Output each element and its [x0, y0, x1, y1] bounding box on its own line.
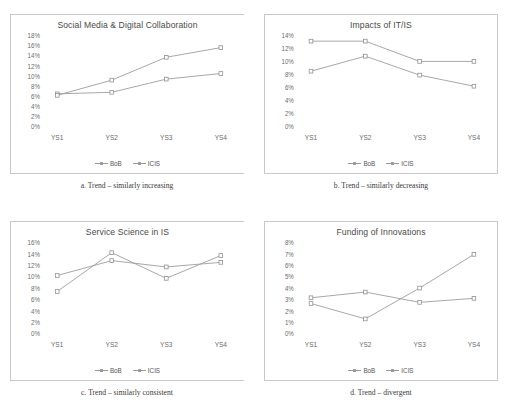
x-axis-tick-label: YS3: [160, 341, 173, 348]
x-axis-tick-label: YS3: [160, 134, 173, 141]
chart-panel-a: Social Media & Digital Collaboration 18%…: [10, 14, 244, 174]
data-point-marker: [164, 55, 168, 59]
legend-label-icis: ICIS: [148, 160, 160, 167]
series-line-icis: [311, 292, 474, 302]
x-axis-tick-label: YS3: [413, 341, 426, 348]
series-line-bob: [311, 254, 474, 319]
y-axis-tick-label: 16%: [28, 239, 41, 246]
legend-swatch-icis-icon: [133, 163, 146, 164]
x-axis-tick-label: YS2: [359, 134, 372, 141]
legend-item-icis-c: ICIS: [133, 367, 160, 374]
y-axis-tick-label: 3%: [285, 296, 294, 303]
y-axis-tick-label: 6%: [285, 262, 294, 269]
y-axis-tick-label: 0%: [285, 123, 294, 130]
data-point-marker: [110, 259, 114, 263]
data-point-marker: [309, 39, 313, 43]
data-point-marker: [219, 260, 223, 264]
legend-label-bob: BoB: [363, 367, 375, 374]
legend-item-bob-b: BoB: [348, 160, 375, 167]
data-point-marker: [363, 54, 367, 58]
chart-cell-d: Funding of Innovations 8%7%6%5%4%3%2%1%0…: [254, 207, 508, 414]
y-axis-tick-label: 2%: [285, 308, 294, 315]
x-axis-tick-label: YS4: [468, 341, 481, 348]
x-axis-tick-label: YS3: [413, 134, 426, 141]
y-axis-tick-label: 8%: [285, 71, 294, 78]
chart-caption-c: c. Trend – similarly consistent: [81, 388, 173, 397]
y-axis-tick-label: 4%: [31, 308, 40, 315]
legend-label-icis: ICIS: [148, 367, 160, 374]
legend-item-bob-c: BoB: [95, 367, 122, 374]
chart-title-a: Social Media & Digital Collaboration: [11, 20, 244, 30]
chart-cell-a: Social Media & Digital Collaboration 18%…: [0, 0, 254, 207]
y-axis-tick-label: 2%: [31, 113, 40, 120]
data-point-marker: [219, 46, 223, 50]
data-point-marker: [164, 77, 168, 81]
data-point-marker: [418, 286, 422, 290]
chart-grid: Social Media & Digital Collaboration 18%…: [0, 0, 508, 414]
data-point-marker: [418, 300, 422, 304]
x-axis-tick-label: YS1: [305, 134, 318, 141]
y-axis-tick-label: 12%: [28, 63, 41, 70]
y-axis-tick-label: 10%: [28, 273, 41, 280]
legend-label-icis: ICIS: [401, 367, 413, 374]
data-point-marker: [309, 302, 313, 306]
x-axis-tick-label: YS2: [359, 341, 372, 348]
y-axis-tick-label: 2%: [31, 319, 40, 326]
chart-panel-c: Service Science in IS 16%14%12%10%8%6%4%…: [10, 221, 244, 381]
data-point-marker: [418, 60, 422, 64]
chart-panel-d: Funding of Innovations 8%7%6%5%4%3%2%1%0…: [264, 221, 498, 381]
figure-sheet: Social Media & Digital Collaboration 18%…: [0, 0, 508, 414]
data-point-marker: [110, 251, 114, 255]
plot-area-d: 8%7%6%5%4%3%2%1%0%YS1YS2YS3YS4: [265, 239, 495, 354]
x-axis-tick-label: YS2: [106, 134, 119, 141]
y-axis-tick-label: 6%: [285, 84, 294, 91]
x-axis-tick-label: YS1: [305, 341, 318, 348]
y-axis-tick-label: 7%: [285, 250, 294, 257]
chart-title-d: Funding of Innovations: [265, 227, 497, 237]
chart-caption-d: d. Trend – divergent: [350, 388, 411, 397]
y-axis-tick-label: 8%: [31, 285, 40, 292]
x-axis-tick-label: YS2: [106, 341, 119, 348]
data-point-marker: [55, 274, 59, 278]
chart-panel-b: Impacts of IT/IS 14%12%10%8%6%4%2%0%YS1Y…: [264, 14, 498, 174]
data-point-marker: [309, 296, 313, 300]
data-point-marker: [472, 84, 476, 88]
series-line-icis: [57, 48, 221, 96]
y-axis-tick-label: 14%: [28, 250, 41, 257]
legend-item-bob-a: BoB: [95, 160, 122, 167]
data-point-marker: [110, 90, 114, 94]
legend-label-bob: BoB: [363, 160, 375, 167]
x-axis-tick-label: YS1: [51, 341, 64, 348]
chart-cell-c: Service Science in IS 16%14%12%10%8%6%4%…: [0, 207, 254, 414]
y-axis-tick-label: 14%: [28, 52, 41, 59]
y-axis-tick-label: 6%: [31, 296, 40, 303]
series-line-bob: [311, 56, 474, 86]
y-axis-tick-label: 2%: [285, 110, 294, 117]
data-point-marker: [363, 39, 367, 43]
legend-d: BoB ICIS: [265, 367, 497, 374]
data-point-marker: [55, 290, 59, 294]
data-point-marker: [472, 296, 476, 300]
legend-label-bob: BoB: [110, 367, 122, 374]
y-axis-tick-label: 10%: [281, 58, 294, 65]
legend-b: BoB ICIS: [265, 160, 497, 167]
y-axis-tick-label: 12%: [28, 262, 41, 269]
data-point-marker: [309, 69, 313, 73]
y-axis-tick-label: 18%: [28, 32, 41, 39]
y-axis-tick-label: 1%: [285, 319, 294, 326]
x-axis-tick-label: YS4: [215, 134, 228, 141]
line-chart-a: 18%16%14%12%10%8%6%4%2%0%YS1YS2YS3YS4: [11, 32, 242, 147]
y-axis-tick-label: 16%: [28, 42, 41, 49]
line-chart-d: 8%7%6%5%4%3%2%1%0%YS1YS2YS3YS4: [265, 239, 495, 354]
data-point-marker: [363, 290, 367, 294]
series-line-icis: [57, 261, 221, 276]
y-axis-tick-label: 6%: [31, 93, 40, 100]
y-axis-tick-label: 0%: [31, 330, 40, 337]
x-axis-tick-label: YS4: [215, 341, 228, 348]
y-axis-tick-label: 14%: [281, 32, 294, 39]
y-axis-tick-label: 4%: [31, 103, 40, 110]
plot-area-c: 16%14%12%10%8%6%4%2%0%YS1YS2YS3YS4: [11, 239, 242, 354]
chart-caption-b: b. Trend – similarly decreasing: [334, 181, 428, 190]
legend-item-icis-b: ICIS: [386, 160, 413, 167]
x-axis-tick-label: YS4: [468, 134, 481, 141]
